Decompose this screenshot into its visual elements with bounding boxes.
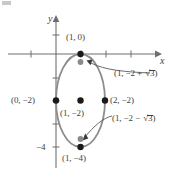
point-vertex-top <box>77 51 83 57</box>
label-focus-upper: (1, −2 + √3) <box>114 69 157 78</box>
point-vertex-bottom <box>77 144 83 150</box>
y-tick-label-minus4: −4 <box>36 143 45 152</box>
plotted-points <box>53 51 108 150</box>
ellipse-figure: y x −4 (1, 0) (1, −4) (0, −2) (2, −2) (1… <box>0 0 175 172</box>
leader-line-lower-focus <box>83 116 113 141</box>
label-center: (1, −2) <box>60 109 84 118</box>
point-focus-lower <box>78 136 84 142</box>
point-covertex-right <box>102 97 108 103</box>
label-focus-lower: (1, −2 − √3) <box>112 114 155 123</box>
label-covertex-right: (2, −2) <box>110 96 134 105</box>
y-axis-label: y <box>48 14 52 24</box>
point-focus-upper <box>78 59 84 65</box>
point-covertex-left <box>53 97 59 103</box>
point-center <box>77 97 83 103</box>
label-vertex-bottom: (1, −4) <box>62 154 86 163</box>
figure-canvas <box>0 0 175 172</box>
label-vertex-top: (1, 0) <box>66 33 85 42</box>
x-axis-label: x <box>160 56 164 66</box>
label-covertex-left: (0, −2) <box>11 96 35 105</box>
